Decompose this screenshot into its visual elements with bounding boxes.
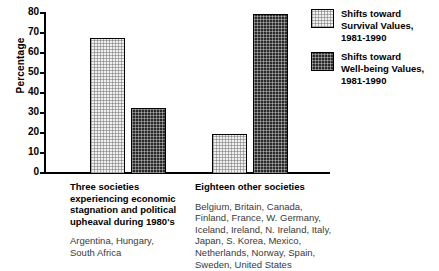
bar-g1-s0 — [212, 134, 247, 174]
y-tick-label: 50 — [28, 66, 39, 77]
y-tick-label: 80 — [28, 6, 39, 17]
y-tick-label: 0 — [33, 166, 39, 177]
y-tick-mark — [40, 112, 46, 114]
y-tick-label: 30 — [28, 106, 39, 117]
y-tick-mark — [40, 72, 46, 74]
y-tick-label: 10 — [28, 146, 39, 157]
chart-legend: Shifts toward Survival Values, 1981-1990… — [311, 8, 439, 95]
legend-item-wellbeing-values: Shifts toward Well-being Values, 1981-19… — [311, 51, 439, 86]
bar-g0-s0 — [90, 38, 125, 174]
y-tick-mark — [40, 92, 46, 94]
legend-swatch-dark-icon — [311, 52, 334, 71]
y-tick-mark — [40, 52, 46, 54]
y-axis-title: Percentage — [15, 16, 26, 116]
y-tick-mark — [40, 12, 46, 14]
y-tick-label: 70 — [28, 26, 39, 37]
y-tick-mark — [40, 152, 46, 154]
y-tick-label: 20 — [28, 126, 39, 137]
plot-area: 01020304050607080 — [44, 12, 330, 174]
category-note-0: Argentina, Hungary, South Africa — [70, 235, 194, 258]
y-tick-label: 40 — [28, 86, 39, 97]
y-tick-label: 60 — [28, 46, 39, 57]
legend-label-0: Shifts toward Survival Values, 1981-1990 — [341, 8, 413, 43]
legend-label-1: Shifts toward Well-being Values, 1981-19… — [341, 51, 424, 86]
category-note-1: Belgium, Britain, Canada, Finland, Franc… — [195, 201, 365, 271]
category-title-1: Eighteen other societies — [195, 181, 365, 193]
category-caption-0: Three societies experiencing economic st… — [70, 181, 194, 259]
y-tick-mark — [40, 172, 46, 174]
legend-item-survival-values: Shifts toward Survival Values, 1981-1990 — [311, 8, 439, 43]
category-caption-1: Eighteen other societies Belgium, Britai… — [195, 181, 365, 270]
bar-g1-s1 — [253, 14, 288, 174]
y-tick-mark — [40, 132, 46, 134]
y-tick-mark — [40, 32, 46, 34]
category-title-0: Three societies experiencing economic st… — [70, 181, 194, 227]
legend-swatch-light-icon — [311, 9, 334, 28]
bar-chart-figure: Percentage 01020304050607080 Three socie… — [0, 0, 439, 271]
bar-g0-s1 — [131, 108, 166, 174]
